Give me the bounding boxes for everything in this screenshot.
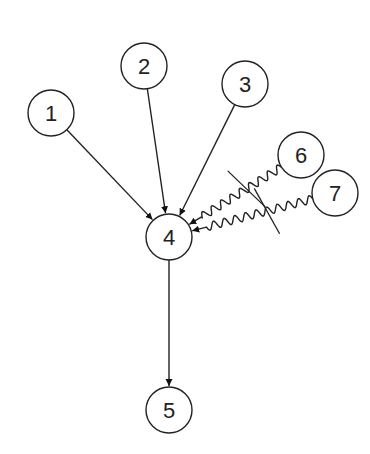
- node-3: 3: [222, 61, 268, 107]
- node-7: 7: [312, 170, 358, 216]
- node-label: 4: [163, 225, 175, 250]
- node-5: 5: [146, 387, 192, 433]
- node-label: 5: [163, 398, 175, 423]
- cut-marks-layer: [228, 171, 280, 234]
- node-6: 6: [278, 132, 324, 178]
- node-4: 4: [146, 214, 192, 260]
- nodes-layer: 1234567: [28, 43, 358, 433]
- edge-1-to-4: [67, 130, 153, 220]
- edge-2-to-4: [147, 89, 165, 213]
- edge-7-to-4: [192, 196, 313, 231]
- node-1: 1: [28, 90, 74, 136]
- node-label: 7: [329, 181, 341, 206]
- node-label: 1: [45, 101, 57, 126]
- node-label: 3: [239, 72, 251, 97]
- edge-3-to-4: [180, 105, 235, 216]
- graph-diagram: 1234567: [0, 0, 370, 454]
- node-label: 6: [295, 143, 307, 168]
- node-2: 2: [121, 43, 167, 89]
- node-label: 2: [138, 54, 150, 79]
